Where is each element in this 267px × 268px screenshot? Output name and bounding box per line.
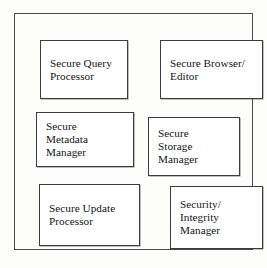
component-label-secure-storage-manager: Secure Storage Manager: [158, 126, 198, 166]
component-label-secure-update-processor: Secure Update Processor: [49, 202, 115, 229]
component-security-integrity-manager[interactable]: Security/ Integrity Manager: [170, 186, 263, 249]
diagram-canvas: Secure Query Processor Secure Browser/ E…: [0, 0, 267, 268]
component-label-security-integrity-manager: Security/ Integrity Manager: [180, 197, 221, 237]
component-label-secure-query-processor: Secure Query Processor: [50, 56, 112, 83]
component-secure-update-processor[interactable]: Secure Update Processor: [39, 184, 140, 246]
component-label-secure-browser-editor: Secure Browser/ Editor: [170, 56, 245, 83]
component-secure-storage-manager[interactable]: Secure Storage Manager: [148, 117, 240, 176]
outer-system-boundary: Secure Query Processor Secure Browser/ E…: [14, 13, 253, 250]
component-secure-browser-editor[interactable]: Secure Browser/ Editor: [160, 40, 263, 99]
component-label-secure-metadata-manager: Secure Metadata Manager: [46, 119, 88, 159]
component-secure-metadata-manager[interactable]: Secure Metadata Manager: [36, 112, 134, 167]
component-secure-query-processor[interactable]: Secure Query Processor: [40, 40, 128, 99]
